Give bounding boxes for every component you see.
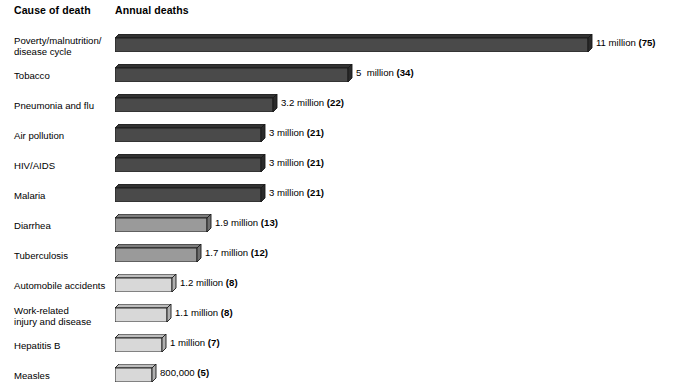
chart-row: Work-related injury and disease1.1 milli… xyxy=(0,304,675,328)
chart-row: Diarrhea1.9 million (13) xyxy=(0,214,675,238)
value-label: 800,000 (5) xyxy=(160,367,209,378)
value-percent: (22) xyxy=(327,97,344,108)
value-label: 1.7 million (12) xyxy=(205,247,268,258)
value-label: 3.2 million (22) xyxy=(281,97,344,108)
bar xyxy=(115,124,266,142)
bar xyxy=(115,214,212,232)
value-amount: 3.2 million xyxy=(281,97,327,108)
value-percent: (21) xyxy=(307,157,324,168)
bar xyxy=(115,334,167,352)
category-label: Diarrhea xyxy=(14,220,51,231)
value-amount: 3 million xyxy=(269,187,307,198)
value-percent: (75) xyxy=(638,37,655,48)
value-amount: 800,000 xyxy=(160,367,197,378)
value-percent: (8) xyxy=(226,277,238,288)
value-amount: 1.7 million xyxy=(205,247,251,258)
value-label: 1 million (7) xyxy=(170,337,220,348)
bar xyxy=(115,154,266,172)
value-amount: 1.1 million xyxy=(175,307,221,318)
value-amount: 3 million xyxy=(269,127,307,138)
value-percent: (12) xyxy=(251,247,268,258)
value-percent: (8) xyxy=(221,307,233,318)
column-headers: Cause of death Annual deaths xyxy=(0,4,675,20)
value-percent: (7) xyxy=(208,337,220,348)
bar xyxy=(115,304,172,322)
chart-row: Air pollution3 million (21) xyxy=(0,124,675,148)
value-label: 3 million (21) xyxy=(269,187,324,198)
header-annual-deaths: Annual deaths xyxy=(115,4,189,16)
bar xyxy=(115,184,266,202)
value-label: 3 million (21) xyxy=(269,157,324,168)
category-label: Tobacco xyxy=(14,70,50,81)
value-percent: (21) xyxy=(307,187,324,198)
category-label: Pneumonia and flu xyxy=(14,100,94,111)
value-amount: 1.2 million xyxy=(180,277,226,288)
value-amount: 3 million xyxy=(269,157,307,168)
value-label: 11 million (75) xyxy=(596,37,656,48)
chart-row: Tobacco5 million (34) xyxy=(0,64,675,88)
category-label: HIV/AIDS xyxy=(14,160,55,171)
value-percent: (21) xyxy=(307,127,324,138)
chart-row: Pneumonia and flu3.2 million (22) xyxy=(0,94,675,118)
chart-row: Automobile accidents1.2 million (8) xyxy=(0,274,675,298)
chart-row: Measles800,000 (5) xyxy=(0,364,675,386)
value-label: 5 million (34) xyxy=(356,67,414,78)
value-label: 1.1 million (8) xyxy=(175,307,233,318)
chart-row: Malaria3 million (21) xyxy=(0,184,675,208)
category-label: Tuberculosis xyxy=(14,250,68,261)
category-label: Hepatitis B xyxy=(14,340,60,351)
chart-row: Tuberculosis1.7 million (12) xyxy=(0,244,675,268)
bar xyxy=(115,364,157,382)
bar xyxy=(115,94,278,112)
header-cause-of-death: Cause of death xyxy=(14,4,91,16)
category-label: Malaria xyxy=(14,190,45,201)
chart-row: Hepatitis B1 million (7) xyxy=(0,334,675,358)
category-label: Work-related injury and disease xyxy=(14,305,91,328)
value-amount: 5 million xyxy=(356,67,397,78)
value-amount: 1.9 million xyxy=(215,217,261,228)
bar xyxy=(115,34,593,52)
value-percent: (34) xyxy=(397,67,414,78)
value-label: 1.2 million (8) xyxy=(180,277,238,288)
value-label: 1.9 million (13) xyxy=(215,217,278,228)
value-percent: (13) xyxy=(261,217,278,228)
category-label: Air pollution xyxy=(14,130,64,141)
chart-row: Poverty/malnutrition/ disease cycle11 mi… xyxy=(0,34,675,58)
category-label: Poverty/malnutrition/ disease cycle xyxy=(14,35,101,58)
bar xyxy=(115,274,177,292)
value-amount: 11 million xyxy=(596,37,638,48)
category-label: Measles xyxy=(14,370,50,381)
chart-row: HIV/AIDS3 million (21) xyxy=(0,154,675,178)
category-label: Automobile accidents xyxy=(14,280,105,291)
value-amount: 1 million xyxy=(170,337,208,348)
bar xyxy=(115,244,202,262)
value-label: 3 million (21) xyxy=(269,127,324,138)
value-percent: (5) xyxy=(197,367,209,378)
bar xyxy=(115,64,353,82)
